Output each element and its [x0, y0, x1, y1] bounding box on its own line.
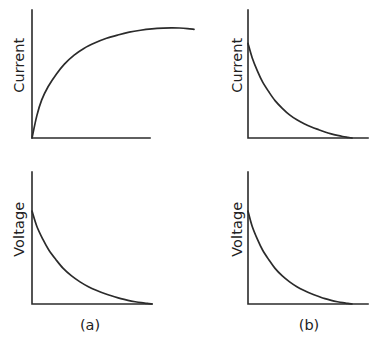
curve-top-right — [248, 43, 352, 138]
axes-bottom-left — [32, 172, 152, 304]
chart-svg-top-right — [244, 8, 379, 148]
y-axis-label-voltage-a: Voltage — [12, 192, 27, 266]
curve-bottom-right — [248, 211, 352, 304]
panel-caption-a: (a) — [55, 318, 125, 333]
y-axis-label-current-b: Current — [230, 28, 245, 102]
figure-root: Current Current Voltage Voltage (a) (b) — [0, 0, 379, 345]
chart-panel-bottom-left — [28, 170, 178, 310]
axes-top-left — [32, 10, 150, 138]
curve-bottom-left — [32, 211, 152, 304]
axes-top-right — [248, 10, 368, 138]
chart-svg-top-left — [28, 8, 178, 148]
chart-svg-bottom-right — [244, 170, 379, 310]
chart-svg-bottom-left — [28, 170, 178, 310]
y-axis-label-current-a: Current — [12, 28, 27, 102]
axes-bottom-right — [248, 172, 368, 304]
panel-caption-b: (b) — [274, 318, 344, 333]
chart-panel-top-left — [28, 8, 178, 148]
y-axis-label-voltage-b: Voltage — [230, 192, 245, 266]
chart-panel-bottom-right — [244, 170, 379, 310]
chart-panel-top-right — [244, 8, 379, 148]
curve-top-left — [32, 28, 194, 138]
